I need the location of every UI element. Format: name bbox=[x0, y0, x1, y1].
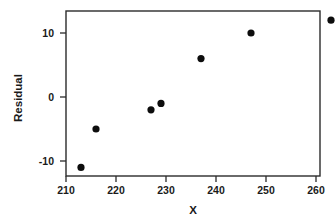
y-axis-title: Residual bbox=[12, 74, 24, 122]
plot-canvas: 210 220 230 240 250 260 10 0 -10 X Resid… bbox=[0, 0, 336, 224]
x-tick-label-250: 250 bbox=[257, 184, 275, 196]
y-tick-label-10: 10 bbox=[42, 27, 54, 39]
data-point bbox=[157, 100, 164, 107]
x-tick-label-210: 210 bbox=[57, 184, 75, 196]
x-axis-ticks bbox=[66, 176, 316, 182]
data-point bbox=[197, 55, 204, 62]
y-tick-label-0: 0 bbox=[48, 91, 54, 103]
x-axis-tick-labels: 210 220 230 240 250 260 bbox=[57, 184, 325, 196]
y-axis-tick-labels: 10 0 -10 bbox=[39, 27, 54, 167]
data-point bbox=[77, 164, 84, 171]
residual-scatter-chart: 210 220 230 240 250 260 10 0 -10 X Resid… bbox=[0, 0, 336, 224]
y-tick-label-minus10: -10 bbox=[39, 155, 54, 167]
x-tick-label-260: 260 bbox=[307, 184, 325, 196]
x-axis-title: X bbox=[189, 204, 197, 216]
y-axis-ticks bbox=[60, 33, 66, 161]
x-tick-label-230: 230 bbox=[157, 184, 175, 196]
data-point bbox=[247, 29, 254, 36]
plot-frame bbox=[66, 11, 320, 176]
data-points-layer bbox=[77, 17, 334, 171]
data-point bbox=[147, 106, 154, 113]
x-tick-label-240: 240 bbox=[207, 184, 225, 196]
data-point bbox=[327, 17, 334, 24]
x-tick-label-220: 220 bbox=[107, 184, 125, 196]
data-point bbox=[92, 125, 99, 132]
